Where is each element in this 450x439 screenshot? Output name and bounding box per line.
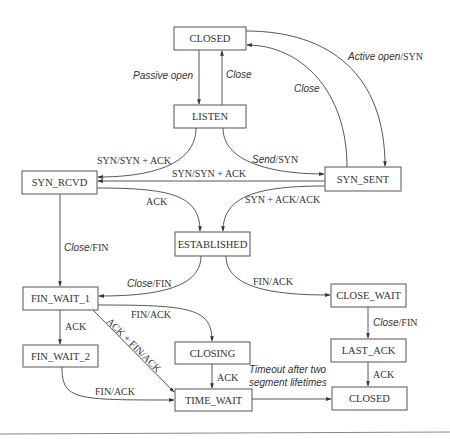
state-last-ack: LAST_ACK [331,339,406,362]
label-listen-syn: SYN/SYN + ACK [97,155,172,166]
label-send-syn: Send/SYN [252,154,298,165]
state-closing: CLOSING [175,342,250,364]
label-active-open: Active open/SYN [347,51,423,62]
state-label: CLOSING [190,348,236,359]
state-label: ESTABLISHED [178,239,248,250]
label-fw1-ack: ACK [65,321,87,332]
tcp-state-diagram: Passive open Close Active open/SYN Close… [0,0,450,439]
state-close-wait: CLOSE_WAIT [331,284,406,307]
label-ack-established: ACK [146,196,168,207]
state-closed-top: CLOSED [174,27,246,50]
label-cw-close: Close/FIN [373,317,417,328]
bottom-divider [0,432,450,434]
arrow-est-close [99,256,201,296]
label-syn-sent-close: Close [294,83,320,94]
state-listen: LISTEN [174,105,246,128]
state-label: SYN_SENT [337,174,390,185]
label-fw1-ackfin: ACK + FIN/ACK [105,316,164,375]
state-label: SYN_RCVD [32,177,88,188]
label-passive-open: Passive open [133,70,193,81]
state-fin-wait-1: FIN_WAIT_1 [23,287,98,310]
state-syn-sent: SYN_SENT [325,167,401,191]
label-timeout-1: Timeout after two [249,364,327,375]
label-listen-close: Close [226,69,252,80]
state-label: CLOSE_WAIT [336,290,401,301]
arrow-ack-established [97,188,200,231]
label-la-ack: ACK [373,369,395,380]
label-est-fin: FIN/ACK [253,276,294,287]
state-closed-bottom: CLOSED [332,387,407,410]
label-est-close: Close/FIN [127,278,171,289]
label-fw2-fin: FIN/ACK [95,386,136,397]
arrow-synack-ack [223,186,325,231]
state-fin-wait-2: FIN_WAIT_2 [23,345,98,367]
state-label: LISTEN [192,111,229,122]
label-closing-ack: ACK [217,372,239,383]
label-simultaneous-syn: SYN/SYN + ACK [172,168,247,179]
label-synack-ack: SYN + ACK/ACK [245,194,321,205]
label-syn-rcvd-close: Close/FIN [64,242,108,253]
state-label: LAST_ACK [342,345,396,356]
state-label: FIN_WAIT_2 [31,351,90,362]
state-syn-rcvd: SYN_RCVD [22,171,97,194]
state-label: TIME_WAIT [185,395,243,406]
label-timeout-2: segment lifetimes [249,377,327,388]
arrow-syn-sent-close [247,45,347,167]
state-established: ESTABLISHED [175,232,250,256]
label-fw1-fin: FIN/ACK [131,309,172,320]
state-time-wait: TIME_WAIT [175,389,252,411]
state-label: FIN_WAIT_1 [31,293,90,304]
state-label: CLOSED [190,33,231,44]
state-label: CLOSED [349,393,390,404]
